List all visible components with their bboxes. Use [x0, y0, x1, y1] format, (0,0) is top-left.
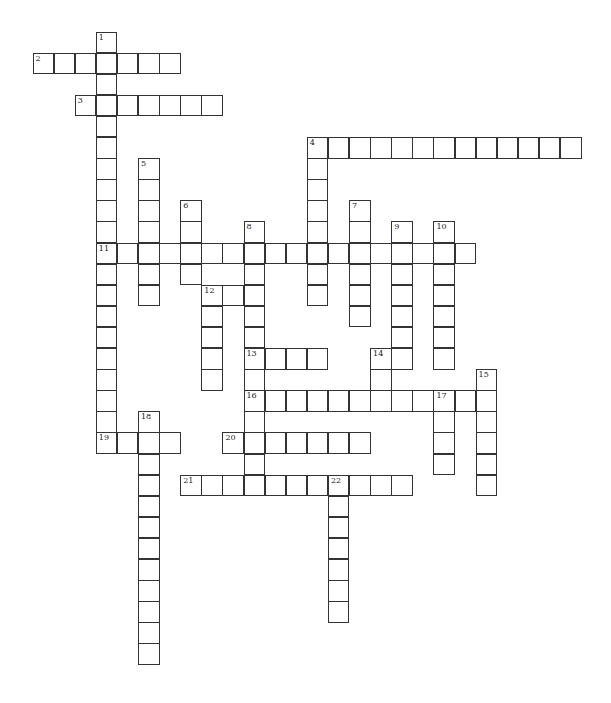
grid-cell[interactable] [138, 285, 160, 307]
grid-cell[interactable] [117, 95, 139, 117]
grid-cell[interactable] [96, 264, 118, 286]
grid-cell[interactable] [349, 285, 371, 307]
grid-cell[interactable] [180, 95, 202, 117]
grid-cell[interactable] [349, 137, 371, 159]
grid-cell[interactable] [349, 243, 371, 265]
grid-cell[interactable] [307, 243, 329, 265]
grid-cell[interactable] [244, 432, 266, 454]
grid-cell[interactable] [433, 306, 455, 328]
grid-cell[interactable] [96, 158, 118, 180]
grid-cell[interactable] [349, 306, 371, 328]
grid-cell[interactable] [96, 285, 118, 307]
grid-cell[interactable] [476, 475, 498, 497]
grid-cell[interactable] [433, 285, 455, 307]
grid-cell[interactable]: 11 [96, 243, 118, 265]
grid-cell[interactable]: 3 [75, 95, 97, 117]
grid-cell[interactable] [244, 369, 266, 391]
grid-cell[interactable] [328, 601, 350, 623]
grid-cell[interactable] [307, 264, 329, 286]
grid-cell[interactable] [455, 390, 477, 412]
grid-cell[interactable] [307, 200, 329, 222]
grid-cell[interactable] [138, 517, 160, 539]
grid-cell[interactable] [307, 179, 329, 201]
grid-cell[interactable] [96, 53, 118, 75]
grid-cell[interactable] [476, 411, 498, 433]
grid-cell[interactable]: 18 [138, 411, 160, 433]
grid-cell[interactable] [180, 243, 202, 265]
grid-cell[interactable] [96, 179, 118, 201]
grid-cell[interactable]: 9 [391, 221, 413, 243]
grid-cell[interactable]: 8 [244, 221, 266, 243]
grid-cell[interactable] [370, 390, 392, 412]
grid-cell[interactable] [244, 285, 266, 307]
grid-cell[interactable] [328, 137, 350, 159]
grid-cell[interactable] [96, 137, 118, 159]
grid-cell[interactable] [412, 243, 434, 265]
grid-cell[interactable] [328, 243, 350, 265]
grid-cell[interactable] [328, 538, 350, 560]
grid-cell[interactable] [244, 264, 266, 286]
grid-cell[interactable] [518, 137, 540, 159]
grid-cell[interactable] [96, 95, 118, 117]
grid-cell[interactable] [476, 454, 498, 476]
grid-cell[interactable] [201, 369, 223, 391]
grid-cell[interactable] [96, 348, 118, 370]
grid-cell[interactable] [244, 243, 266, 265]
grid-cell[interactable] [117, 432, 139, 454]
grid-cell[interactable] [286, 243, 308, 265]
grid-cell[interactable] [328, 559, 350, 581]
grid-cell[interactable] [138, 454, 160, 476]
grid-cell[interactable] [433, 137, 455, 159]
grid-cell[interactable] [244, 306, 266, 328]
grid-cell[interactable]: 2 [33, 53, 55, 75]
grid-cell[interactable] [244, 454, 266, 476]
grid-cell[interactable] [370, 369, 392, 391]
grid-cell[interactable] [286, 475, 308, 497]
grid-cell[interactable]: 4 [307, 137, 329, 159]
grid-cell[interactable] [328, 432, 350, 454]
grid-cell[interactable] [244, 411, 266, 433]
grid-cell[interactable] [307, 285, 329, 307]
grid-cell[interactable] [307, 475, 329, 497]
grid-cell[interactable] [307, 432, 329, 454]
grid-cell[interactable] [286, 432, 308, 454]
grid-cell[interactable] [265, 243, 287, 265]
grid-cell[interactable] [159, 53, 181, 75]
grid-cell[interactable] [391, 285, 413, 307]
grid-cell[interactable] [433, 454, 455, 476]
grid-cell[interactable]: 22 [328, 475, 350, 497]
grid-cell[interactable] [455, 137, 477, 159]
grid-cell[interactable]: 6 [180, 200, 202, 222]
grid-cell[interactable] [307, 348, 329, 370]
grid-cell[interactable] [328, 580, 350, 602]
grid-cell[interactable] [96, 390, 118, 412]
grid-cell[interactable] [265, 348, 287, 370]
grid-cell[interactable] [349, 264, 371, 286]
grid-cell[interactable] [96, 327, 118, 349]
grid-cell[interactable]: 12 [201, 285, 223, 307]
grid-cell[interactable] [433, 264, 455, 286]
grid-cell[interactable] [138, 601, 160, 623]
grid-cell[interactable] [433, 243, 455, 265]
grid-cell[interactable] [539, 137, 561, 159]
grid-cell[interactable] [455, 243, 477, 265]
grid-cell[interactable] [349, 432, 371, 454]
grid-cell[interactable]: 19 [96, 432, 118, 454]
grid-cell[interactable] [265, 432, 287, 454]
grid-cell[interactable] [138, 432, 160, 454]
grid-cell[interactable] [391, 475, 413, 497]
grid-cell[interactable] [328, 390, 350, 412]
grid-cell[interactable]: 5 [138, 158, 160, 180]
grid-cell[interactable] [75, 53, 97, 75]
grid-cell[interactable]: 10 [433, 221, 455, 243]
grid-cell[interactable] [138, 643, 160, 665]
grid-cell[interactable] [265, 475, 287, 497]
grid-cell[interactable] [433, 432, 455, 454]
grid-cell[interactable] [286, 348, 308, 370]
grid-cell[interactable] [476, 432, 498, 454]
grid-cell[interactable] [96, 200, 118, 222]
grid-cell[interactable] [138, 179, 160, 201]
grid-cell[interactable] [138, 559, 160, 581]
grid-cell[interactable] [180, 221, 202, 243]
grid-cell[interactable] [412, 137, 434, 159]
